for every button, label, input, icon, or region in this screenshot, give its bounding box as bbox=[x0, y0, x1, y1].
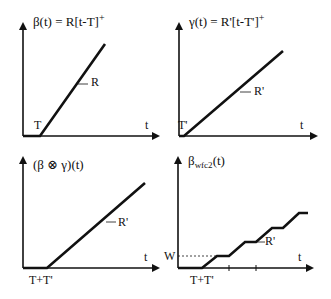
offset-label: T+T' bbox=[29, 273, 53, 287]
panel-title: (β ⊗ γ)(t) bbox=[33, 157, 84, 172]
panel-gamma: γ(t) = R'[t-T']+ R' T' t bbox=[178, 12, 316, 136]
panel-wfc2: βwfc2(t) R' W T+T' t bbox=[164, 153, 312, 287]
offset-label: T' bbox=[178, 118, 188, 132]
gamma-curve bbox=[179, 51, 283, 136]
offset-label: T+T' bbox=[190, 273, 214, 287]
x-axis-label: t bbox=[145, 118, 149, 132]
panel-title: βwfc2(t) bbox=[188, 153, 225, 170]
level-label: W bbox=[164, 249, 176, 263]
offset-label: T bbox=[34, 118, 42, 132]
x-axis-label: t bbox=[144, 250, 148, 264]
staircase-curve bbox=[178, 213, 308, 268]
panel-beta: β(t) = R[t-T]+ R T t bbox=[23, 12, 158, 136]
x-axis-label: t bbox=[300, 118, 304, 132]
panel-title: β(t) = R[t-T]+ bbox=[33, 12, 105, 29]
panel-convolution: (β ⊗ γ)(t) R' T+T' t bbox=[23, 157, 158, 287]
x-axis-label: t bbox=[298, 250, 302, 264]
slope-label: R' bbox=[265, 234, 275, 248]
panel-title: γ(t) = R'[t-T']+ bbox=[188, 12, 265, 29]
slope-label: R bbox=[91, 75, 99, 89]
service-curves-diagram: β(t) = R[t-T]+ R T t γ(t) = R'[t-T']+ R'… bbox=[0, 0, 331, 299]
slope-label: R' bbox=[254, 84, 264, 98]
slope-label: R' bbox=[118, 215, 128, 229]
